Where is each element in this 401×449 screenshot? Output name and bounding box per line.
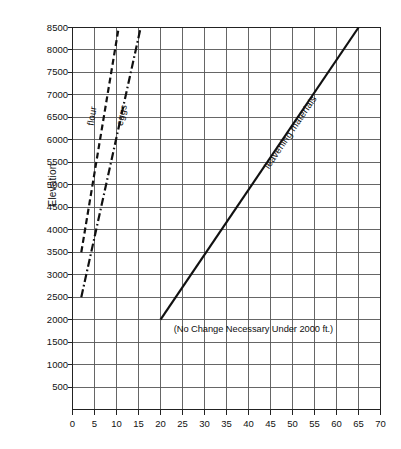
x-tick-10: 10 — [105, 419, 129, 429]
x-tick-20: 20 — [149, 419, 173, 429]
x-tick-40: 40 — [237, 419, 261, 429]
x-tick-45: 45 — [259, 419, 283, 429]
no-change-note: (No Change Necessary Under 2000 ft.) — [174, 324, 333, 334]
x-tick-5: 5 — [83, 419, 107, 429]
x-axis-tick-labels: 0510152025303540455055606570 — [0, 0, 401, 449]
elevation-adjustment-chart: Elevation 850080007500700065006000550050… — [0, 0, 401, 449]
x-tick-30: 30 — [193, 419, 217, 429]
x-tick-70: 70 — [369, 419, 393, 429]
x-tick-35: 35 — [215, 419, 239, 429]
x-tick-15: 15 — [127, 419, 151, 429]
x-tick-60: 60 — [325, 419, 349, 429]
x-tick-0: 0 — [61, 419, 85, 429]
x-tick-65: 65 — [347, 419, 371, 429]
x-tick-50: 50 — [281, 419, 305, 429]
x-tick-55: 55 — [303, 419, 327, 429]
x-tick-25: 25 — [171, 419, 195, 429]
